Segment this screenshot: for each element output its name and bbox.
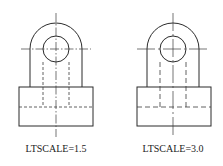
ltscale-comparison-diagram: LTSCALE=1.5 LTSCALE=3.0 xyxy=(0,0,223,166)
figure-ltscale-3-0: LTSCALE=3.0 xyxy=(137,13,211,154)
figure-ltscale-1-5: LTSCALE=1.5 xyxy=(19,13,93,154)
base-block xyxy=(137,87,211,126)
figure-label: LTSCALE=3.0 xyxy=(142,143,203,154)
figure-label: LTSCALE=1.5 xyxy=(25,143,86,154)
